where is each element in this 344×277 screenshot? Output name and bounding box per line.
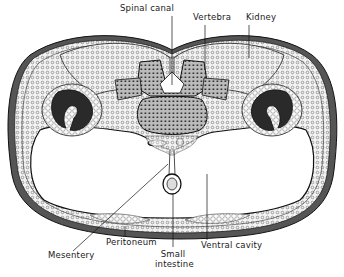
label-peritoneum: Peritoneum [106, 237, 157, 247]
label-kidney: Kidney [246, 12, 276, 22]
left-kidney [42, 84, 102, 136]
label-mesentery: Mesentery [48, 250, 95, 260]
label-small-intestine: Small intestine [155, 249, 191, 269]
label-vertebra: Vertebra [193, 12, 231, 22]
abdomen-cross-section-diagram [0, 0, 344, 277]
right-kidney [242, 84, 302, 136]
label-small-intestine-line1: Small [155, 249, 191, 259]
label-small-intestine-line2: intestine [155, 259, 191, 269]
vertebra-body [137, 96, 207, 134]
label-spinal-canal: Spinal canal [120, 3, 174, 13]
label-ventral-cavity: Ventral cavity [201, 240, 262, 250]
